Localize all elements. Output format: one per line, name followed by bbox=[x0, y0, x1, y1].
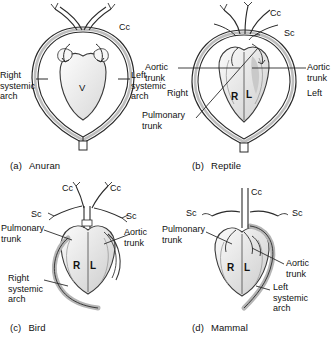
label-cc-left: Cc bbox=[62, 183, 73, 194]
label-aortic-trunk-right: Aortic trunk bbox=[307, 62, 330, 83]
panel-c-caption: (c)Bird bbox=[10, 322, 46, 333]
panel-b-reptile: R L Aortic trunk Aortic trunk Right Left… bbox=[166, 0, 331, 175]
label-left: Left bbox=[307, 88, 322, 99]
ventricle-label: V bbox=[79, 82, 85, 93]
panel-d-caption: (d)Mammal bbox=[192, 322, 248, 333]
chamber-l-label: L bbox=[244, 262, 250, 273]
panel-b-index: (b) bbox=[192, 160, 204, 171]
label-right: Right bbox=[167, 88, 188, 99]
label-pulmonary-trunk: Pulmonary trunk bbox=[162, 224, 205, 245]
panel-b-name: Reptile bbox=[211, 160, 241, 171]
panel-c-index: (c) bbox=[10, 322, 21, 333]
panel-d-mammal: R L Cc Sc Sc Pulmonary trunk Aortic trun… bbox=[166, 182, 331, 332]
label-cc: Cc bbox=[119, 22, 130, 33]
figure-panel-grid: V Right systemic arch Left systemic arch… bbox=[0, 0, 331, 361]
label-cc: Cc bbox=[251, 187, 262, 198]
label-sc-right: Sc bbox=[126, 211, 137, 222]
label-cc: Cc bbox=[270, 8, 281, 19]
chamber-l-label: L bbox=[246, 89, 252, 100]
chamber-r-label: R bbox=[227, 262, 234, 273]
sc-left-hook bbox=[202, 214, 212, 216]
label-sc-left: Sc bbox=[186, 208, 197, 219]
sc-left-fork bbox=[48, 213, 54, 220]
label-pulmonary-trunk: Pulmonary trunk bbox=[142, 110, 185, 131]
cc-fork-left bbox=[220, 4, 227, 10]
sc-right-hook bbox=[278, 214, 288, 216]
label-cc-right: Cc bbox=[110, 183, 121, 194]
right-carotid-fork bbox=[108, 3, 115, 9]
sc-right-branch bbox=[94, 208, 122, 218]
cc-upper bbox=[242, 188, 248, 198]
panel-a-caption: (a)Anuran bbox=[10, 160, 60, 171]
label-aortic-trunk: Aortic trunk bbox=[124, 227, 147, 248]
label-right-systemic-arch: Right systemic arch bbox=[8, 273, 43, 305]
panel-b-caption: (b)Reptile bbox=[192, 160, 241, 171]
label-aortic-trunk: Aortic trunk bbox=[286, 258, 309, 279]
label-sc: Sc bbox=[284, 28, 295, 39]
label-sc-left: Sc bbox=[31, 209, 42, 220]
panel-c-bird: R L Cc Cc Sc Sc Pulmonary trunk Aortic t… bbox=[0, 182, 166, 332]
label-pulmonary-trunk: Pulmonary trunk bbox=[1, 223, 44, 244]
ventral-tip bbox=[79, 141, 87, 150]
label-right-systemic-arch: Right systemic arch bbox=[0, 70, 46, 102]
cropped-caption-sliver bbox=[8, 356, 308, 361]
panel-d-name: Mammal bbox=[211, 322, 248, 333]
cc-right-stalk bbox=[92, 186, 108, 208]
cc-left-fork bbox=[73, 182, 80, 186]
chamber-l-label: L bbox=[90, 260, 96, 271]
label-aortic-trunk-left: Aortic trunk bbox=[145, 62, 168, 83]
left-carotid-fork bbox=[51, 3, 58, 9]
right-carotid-stalk bbox=[89, 9, 111, 30]
label-sc-right: Sc bbox=[292, 208, 303, 219]
panel-d-index: (d) bbox=[192, 322, 204, 333]
panel-a-name: Anuran bbox=[29, 160, 60, 171]
label-left-systemic-arch: Left systemic arch bbox=[273, 282, 308, 314]
panel-a-index: (a) bbox=[10, 160, 22, 171]
vessel-collar bbox=[82, 220, 92, 226]
chamber-r-label: R bbox=[73, 260, 80, 271]
sc-left-branch bbox=[54, 206, 82, 216]
sc-left-branch bbox=[212, 211, 240, 216]
left-carotid-stalk bbox=[55, 9, 77, 30]
panel-a-anuran: V Right systemic arch Left systemic arch… bbox=[0, 0, 166, 175]
panel-c-name: Bird bbox=[28, 322, 45, 333]
cc-fork-mid bbox=[244, 2, 252, 6]
cc-left-stalk bbox=[76, 186, 84, 208]
ventral-tip bbox=[240, 143, 248, 152]
chamber-r-label: R bbox=[231, 91, 238, 102]
sc-right-branch bbox=[250, 211, 278, 216]
